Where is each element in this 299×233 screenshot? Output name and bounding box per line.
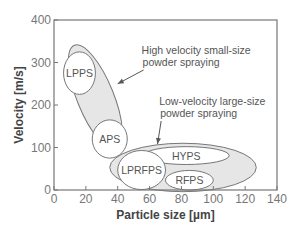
x-tick-label: 80 xyxy=(175,192,189,206)
y-tick-label: 200 xyxy=(31,98,51,112)
annotation-text: Low-velocity large-size xyxy=(159,95,265,107)
annotation-low-velocity: Low-velocity large-sizepowder spraying xyxy=(156,95,266,144)
x-tick-label: 120 xyxy=(235,192,255,206)
annotations-layer: High velocity small-sizepowder sprayingL… xyxy=(118,44,266,144)
annotation-text: powder spraying xyxy=(160,107,237,119)
method-label: RFPS xyxy=(175,174,203,186)
x-tick-label: 60 xyxy=(143,192,157,206)
annotation-arrow-head xyxy=(156,138,161,144)
region-aps: APS xyxy=(92,120,127,158)
annotation-high-velocity: High velocity small-sizepowder spraying xyxy=(118,44,251,84)
x-tick-label: 140 xyxy=(267,192,287,206)
y-tick-label: 100 xyxy=(31,141,51,155)
x-tick-label: 20 xyxy=(79,192,93,206)
group-high-velocity: LPPSAPS xyxy=(57,38,133,158)
method-label: LPRFPS xyxy=(121,164,162,176)
annotation-text: High velocity small-size xyxy=(142,44,251,56)
method-label: LPPS xyxy=(66,67,93,79)
chart: LPPSAPSHYPSLPRFPSRFPS 020406080100120140… xyxy=(0,0,299,233)
y-tick-label: 0 xyxy=(44,183,51,197)
region-lpps: LPPS xyxy=(64,52,96,95)
y-tick-label: 400 xyxy=(31,13,51,27)
x-axis-title: Particle size [µm] xyxy=(116,208,214,222)
annotation-text: powder spraying xyxy=(143,56,220,68)
x-tick-label: 100 xyxy=(203,192,223,206)
region-lprfps: LPRFPS xyxy=(118,150,166,189)
x-tick-label: 40 xyxy=(111,192,125,206)
group-low-velocity: HYPSLPRFPSRFPS xyxy=(110,143,257,191)
region-rfps: RFPS xyxy=(166,170,214,190)
y-axis-title: Velocity [m/s] xyxy=(12,66,26,143)
x-tick-label: 0 xyxy=(51,192,58,206)
method-label: HYPS xyxy=(172,150,201,162)
y-tick-label: 300 xyxy=(31,56,51,70)
method-label: APS xyxy=(99,133,120,145)
